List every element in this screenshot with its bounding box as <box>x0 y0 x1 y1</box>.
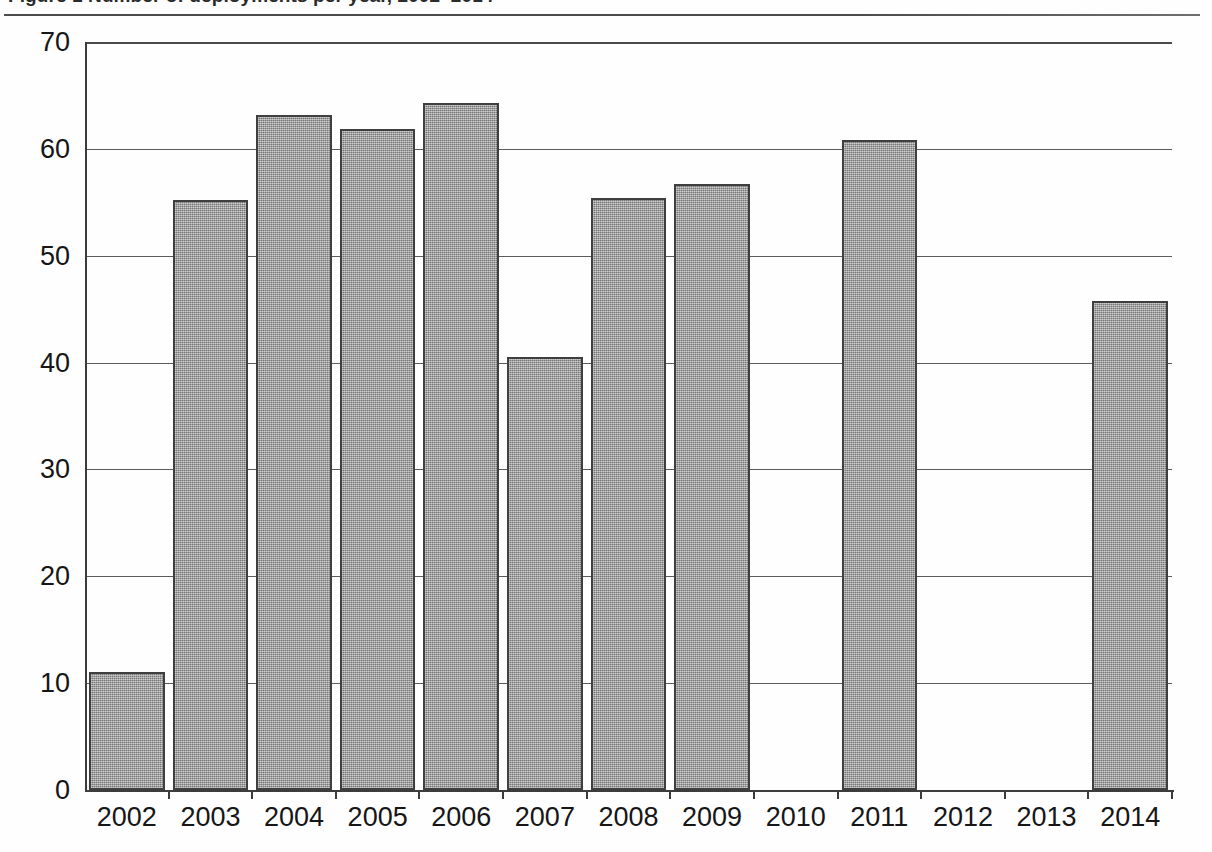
x-tick-label-2012: 2012 <box>921 802 1005 833</box>
y-tick-label-40: 40 <box>12 347 70 378</box>
x-tick-2004 <box>335 790 337 799</box>
bar-2002 <box>89 672 165 790</box>
gridline-60 <box>85 149 1172 150</box>
x-tick-2009 <box>753 790 755 799</box>
x-tick-2007 <box>586 790 588 799</box>
y-tick-label-50: 50 <box>12 240 70 271</box>
x-tick-2002 <box>168 790 170 799</box>
x-tick-2013 <box>1087 790 1089 799</box>
y-tick-label-20: 20 <box>12 561 70 592</box>
x-tick-label-2003: 2003 <box>169 802 253 833</box>
bar-2007 <box>507 357 583 790</box>
x-tick-label-2006: 2006 <box>419 802 503 833</box>
x-tick-label-2013: 2013 <box>1005 802 1089 833</box>
y-tick-label-0: 0 <box>12 775 70 806</box>
bar-2005 <box>340 129 416 790</box>
y-tick-label-70: 70 <box>12 27 70 58</box>
bar-chart: 010203040506070 200220032004200520062007… <box>0 0 1212 852</box>
y-tick-label-10: 10 <box>12 668 70 699</box>
y-axis-labels: 010203040506070 <box>8 42 70 790</box>
x-tick-2003 <box>251 790 253 799</box>
x-tick-label-2014: 2014 <box>1088 802 1172 833</box>
x-tick-label-2007: 2007 <box>503 802 587 833</box>
plot-area <box>85 42 1172 790</box>
y-tick-label-60: 60 <box>12 133 70 164</box>
figure-container: Figure 1 Number of deployments per year,… <box>0 0 1212 852</box>
x-tick-2005 <box>418 790 420 799</box>
bar-2009 <box>674 184 750 790</box>
x-tick-label-2004: 2004 <box>252 802 336 833</box>
x-tick-2010 <box>837 790 839 799</box>
x-tick-2011 <box>920 790 922 799</box>
x-tick-label-2008: 2008 <box>587 802 671 833</box>
x-tick-2012 <box>1004 790 1006 799</box>
gridline-70 <box>85 42 1172 44</box>
x-tick-label-2011: 2011 <box>838 802 922 833</box>
bar-2014 <box>1092 301 1168 790</box>
x-tick-2006 <box>502 790 504 799</box>
bar-2006 <box>423 103 499 790</box>
y-tick-label-30: 30 <box>12 454 70 485</box>
x-tick-label-2010: 2010 <box>754 802 838 833</box>
x-axis-line <box>85 790 1174 792</box>
bar-2004 <box>256 115 332 790</box>
x-tick-2008 <box>669 790 671 799</box>
x-tick-label-2005: 2005 <box>336 802 420 833</box>
x-tick-2014 <box>1171 790 1173 799</box>
x-tick-label-2002: 2002 <box>85 802 169 833</box>
y-axis-line <box>85 42 87 792</box>
bar-2011 <box>842 140 918 790</box>
x-tick-label-2009: 2009 <box>670 802 754 833</box>
bar-2008 <box>591 198 667 790</box>
bar-2003 <box>173 200 249 790</box>
